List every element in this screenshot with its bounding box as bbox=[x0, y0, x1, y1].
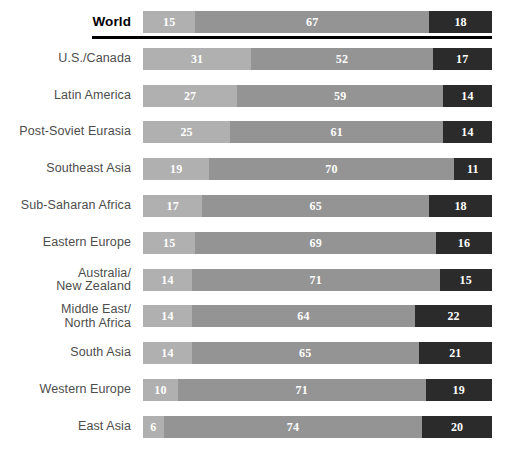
bar-segment-value: 15 bbox=[163, 16, 175, 28]
bar-segment-value: 15 bbox=[163, 237, 175, 249]
row-label: U.S./Canada bbox=[0, 52, 131, 66]
chart-row: Eastern Europe156916 bbox=[0, 232, 507, 254]
bar-segment: 18 bbox=[429, 195, 492, 217]
row-label: Post-Soviet Eurasia bbox=[0, 126, 131, 140]
bar-segment-value: 65 bbox=[299, 347, 311, 359]
stacked-bar: 315217 bbox=[143, 48, 492, 70]
bar-segment: 17 bbox=[433, 48, 492, 70]
bar-segment: 19 bbox=[143, 158, 209, 180]
stacked-bar: 147115 bbox=[143, 269, 492, 291]
bar-segment-value: 67 bbox=[306, 16, 318, 28]
chart-row: U.S./Canada315217 bbox=[0, 48, 507, 70]
bar-segment: 70 bbox=[209, 158, 453, 180]
bar-segment-value: 20 bbox=[451, 421, 463, 433]
world-row-underline bbox=[92, 36, 492, 39]
row-label: Middle East/ North Africa bbox=[0, 303, 131, 330]
stacked-bar: 67420 bbox=[143, 416, 492, 438]
bar-segment-value: 22 bbox=[447, 310, 459, 322]
row-label: Australia/ New Zealand bbox=[0, 266, 131, 293]
bar-segment-value: 18 bbox=[454, 200, 466, 212]
bar-segment: 14 bbox=[143, 269, 192, 291]
bar-segment: 61 bbox=[230, 121, 443, 143]
stacked-bar: 275914 bbox=[143, 85, 492, 107]
bar-segment: 65 bbox=[202, 195, 429, 217]
bar-segment: 74 bbox=[164, 416, 422, 438]
bar-segment-value: 14 bbox=[161, 347, 173, 359]
bar-segment-value: 74 bbox=[287, 421, 299, 433]
bar-segment: 19 bbox=[426, 379, 492, 401]
bar-segment-value: 14 bbox=[161, 274, 173, 286]
bar-segment-value: 14 bbox=[161, 310, 173, 322]
stacked-bar: 156916 bbox=[143, 232, 492, 254]
bar-segment: 71 bbox=[192, 269, 440, 291]
stacked-bar: 197011 bbox=[143, 158, 492, 180]
bar-segment-value: 64 bbox=[297, 310, 309, 322]
row-label: South Asia bbox=[0, 346, 131, 360]
row-label: Eastern Europe bbox=[0, 236, 131, 250]
bar-segment: 21 bbox=[419, 342, 492, 364]
bar-segment: 18 bbox=[429, 11, 492, 33]
bar-segment-value: 6 bbox=[150, 421, 156, 433]
bar-segment: 14 bbox=[443, 85, 492, 107]
bar-segment: 14 bbox=[143, 342, 192, 364]
row-label: East Asia bbox=[0, 420, 131, 434]
bar-segment: 15 bbox=[143, 232, 195, 254]
bar-segment: 22 bbox=[415, 305, 492, 327]
bar-segment-value: 27 bbox=[184, 90, 196, 102]
stacked-bar-chart: World156718U.S./Canada315217Latin Americ… bbox=[0, 0, 507, 463]
row-label: Southeast Asia bbox=[0, 162, 131, 176]
bar-segment-value: 69 bbox=[310, 237, 322, 249]
bar-segment: 14 bbox=[443, 121, 492, 143]
bar-segment: 6 bbox=[143, 416, 164, 438]
stacked-bar: 146422 bbox=[143, 305, 492, 327]
chart-row: South Asia146521 bbox=[0, 342, 507, 364]
bar-segment-value: 17 bbox=[166, 200, 178, 212]
chart-row: Western Europe107119 bbox=[0, 379, 507, 401]
bar-segment-value: 19 bbox=[170, 163, 182, 175]
bar-segment-value: 14 bbox=[461, 90, 473, 102]
bar-segment-value: 19 bbox=[453, 384, 465, 396]
chart-row: Sub-Saharan Africa176518 bbox=[0, 195, 507, 217]
bar-segment-value: 16 bbox=[458, 237, 470, 249]
stacked-bar: 107119 bbox=[143, 379, 492, 401]
bar-segment: 10 bbox=[143, 379, 178, 401]
bar-segment-value: 59 bbox=[334, 90, 346, 102]
bar-segment: 71 bbox=[178, 379, 426, 401]
bar-segment-value: 17 bbox=[456, 53, 468, 65]
bar-segment-value: 31 bbox=[191, 53, 203, 65]
bar-segment-value: 65 bbox=[310, 200, 322, 212]
bar-segment-value: 25 bbox=[180, 126, 192, 138]
chart-row: World156718 bbox=[0, 11, 507, 33]
bar-segment-value: 18 bbox=[454, 16, 466, 28]
bar-segment-value: 61 bbox=[330, 126, 342, 138]
chart-row: Southeast Asia197011 bbox=[0, 158, 507, 180]
row-label: Latin America bbox=[0, 89, 131, 103]
bar-segment: 27 bbox=[143, 85, 237, 107]
bar-segment: 65 bbox=[192, 342, 419, 364]
chart-row: Post-Soviet Eurasia256114 bbox=[0, 121, 507, 143]
bar-segment: 69 bbox=[195, 232, 436, 254]
bar-segment: 16 bbox=[436, 232, 492, 254]
bar-segment-value: 11 bbox=[467, 163, 479, 175]
row-label: World bbox=[0, 15, 131, 29]
stacked-bar: 176518 bbox=[143, 195, 492, 217]
bar-segment: 31 bbox=[143, 48, 251, 70]
bar-segment: 14 bbox=[143, 305, 192, 327]
bar-segment: 59 bbox=[237, 85, 443, 107]
bar-segment-value: 70 bbox=[325, 163, 337, 175]
bar-segment-value: 21 bbox=[449, 347, 461, 359]
row-label: Sub-Saharan Africa bbox=[0, 199, 131, 213]
bar-segment-value: 14 bbox=[461, 126, 473, 138]
bar-segment-value: 10 bbox=[154, 384, 166, 396]
bar-segment: 20 bbox=[422, 416, 492, 438]
stacked-bar: 256114 bbox=[143, 121, 492, 143]
bar-segment: 17 bbox=[143, 195, 202, 217]
chart-row: Australia/ New Zealand147115 bbox=[0, 269, 507, 291]
stacked-bar: 156718 bbox=[143, 11, 492, 33]
bar-segment: 25 bbox=[143, 121, 230, 143]
bar-segment-value: 15 bbox=[460, 274, 472, 286]
chart-row: Middle East/ North Africa146422 bbox=[0, 305, 507, 327]
stacked-bar: 146521 bbox=[143, 342, 492, 364]
bar-segment: 67 bbox=[195, 11, 429, 33]
bar-segment: 52 bbox=[251, 48, 432, 70]
